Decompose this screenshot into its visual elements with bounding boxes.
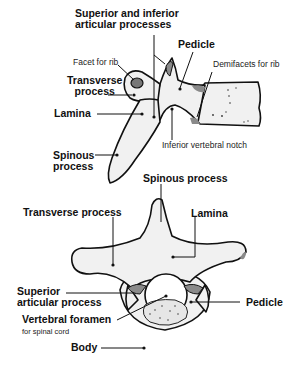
vertebra-diagram: Superior and inferior articular processe… bbox=[0, 0, 294, 392]
label-transverse-process-lateral: Transverse process bbox=[67, 75, 122, 97]
label-lamina-superior: Lamina bbox=[191, 208, 228, 219]
label-pedicle-lateral: Pedicle bbox=[178, 39, 215, 50]
label-foramen-note: for spinal cord bbox=[22, 328, 69, 336]
label-transverse-line2: process bbox=[67, 86, 122, 97]
label-facet-for-rib: Facet for rib bbox=[73, 58, 118, 67]
label-pedicle-superior: Pedicle bbox=[246, 297, 283, 308]
label-vertebral-foramen: Vertebral foramen bbox=[22, 314, 111, 325]
label-transverse-process-superior: Transverse process bbox=[23, 207, 122, 218]
label-lamina-lateral: Lamina bbox=[54, 108, 91, 119]
label-spinous-process-superior: Spinous process bbox=[143, 173, 228, 184]
label-inferior-vertebral-notch: Inferior vertebral notch bbox=[162, 141, 247, 150]
label-demifacets-for-rib: Demifacets for rib bbox=[213, 60, 280, 69]
label-superior-articular-line2: articular process bbox=[17, 297, 102, 308]
label-superior-articular-process: Superior articular process bbox=[17, 286, 102, 308]
label-spinous-line2: process bbox=[53, 161, 94, 172]
label-articular-processes: Superior and inferior articular processe… bbox=[75, 8, 179, 30]
label-spinous-process-lateral: Spinous process bbox=[53, 150, 94, 172]
label-body: Body bbox=[71, 342, 97, 353]
label-articular-line2: articular processes bbox=[75, 19, 179, 30]
